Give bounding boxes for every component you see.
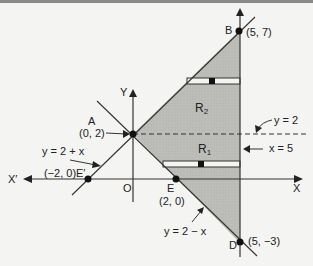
pointer-l2-head: [197, 207, 204, 214]
x5-arrow: [236, 8, 244, 16]
x-prime-axis-label: X′: [8, 174, 17, 185]
pointer-l1-head: [92, 161, 101, 168]
pointer-y2-head: [255, 125, 262, 133]
origin-label: O: [123, 183, 132, 194]
point-b: [236, 28, 243, 35]
point-b-name: B: [225, 25, 232, 36]
point-d: [237, 239, 244, 246]
shaded-region: [133, 30, 240, 243]
point-e-prime: [85, 176, 92, 183]
point-b-coord: (5, 7): [246, 27, 272, 38]
point-e-name: E: [167, 183, 174, 194]
y-axis-arrow: [129, 89, 137, 97]
strip-r1-marker: [198, 161, 204, 167]
point-d-name: D: [229, 240, 237, 251]
y-axis-label: Y: [120, 87, 127, 98]
point-a: [130, 131, 137, 138]
point-e-coord: (2, 0): [159, 196, 185, 207]
region-r2-label: R2: [195, 102, 208, 116]
region-diagram: [0, 0, 313, 266]
region-r1-base: R: [198, 142, 207, 156]
region-r1-sub: 1: [207, 148, 211, 157]
point-a-coord: (0, 2): [79, 128, 105, 139]
pointer-l1: [70, 160, 96, 165]
pointer-x5-head: [243, 145, 250, 153]
region-r1-label: R1: [198, 143, 211, 157]
region-r2-base: R: [195, 101, 204, 115]
region-r2-sub: 2: [204, 107, 208, 116]
point-a-name: A: [88, 116, 95, 127]
label-y-equals-2-minus-x: y = 2 − x: [164, 226, 206, 237]
x-axis-label: X: [293, 183, 300, 194]
point-e-prime-name: E′: [76, 168, 85, 179]
point-d-coord: (5, −3): [248, 236, 280, 247]
strip-r2-marker: [209, 78, 215, 84]
label-y-equals-2: y = 2: [274, 115, 298, 126]
x-axis-arrow-left: [23, 175, 32, 183]
pointer-l2: [192, 211, 201, 222]
label-x-equals-5: x = 5: [269, 143, 293, 154]
point-e-prime-coord: (−2, 0): [44, 168, 76, 179]
label-y-equals-2-plus-x: y = 2 + x: [42, 146, 84, 157]
